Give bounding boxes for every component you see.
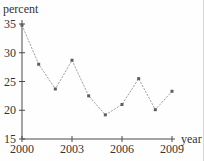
axes: 15202530352000200320062009 xyxy=(4,17,184,156)
data-point xyxy=(121,103,124,106)
x-tick-label: 2000 xyxy=(10,142,34,156)
data-point xyxy=(171,90,174,93)
data-point xyxy=(104,113,107,116)
x-tick-label: 2009 xyxy=(160,142,184,156)
data-point xyxy=(154,108,157,111)
y-tick-label: 20 xyxy=(4,103,16,117)
line-chart: percent year 15202530352000200320062009 xyxy=(0,0,204,161)
trend-line xyxy=(22,25,172,115)
data-point xyxy=(71,59,74,62)
x-axis-title: year xyxy=(181,132,202,146)
data-point xyxy=(137,77,140,80)
chart-canvas: percent year 15202530352000200320062009 xyxy=(0,0,203,161)
x-tick-label: 2003 xyxy=(60,142,84,156)
y-tick-label: 35 xyxy=(4,17,16,31)
y-axis-title: percent xyxy=(3,2,39,16)
data-series xyxy=(21,24,174,117)
data-point xyxy=(87,94,90,97)
x-tick-label: 2006 xyxy=(110,142,134,156)
data-point xyxy=(37,63,40,66)
y-tick-label: 25 xyxy=(4,75,16,89)
data-point xyxy=(21,24,24,27)
data-point xyxy=(54,87,57,90)
y-tick-label: 30 xyxy=(4,46,16,60)
